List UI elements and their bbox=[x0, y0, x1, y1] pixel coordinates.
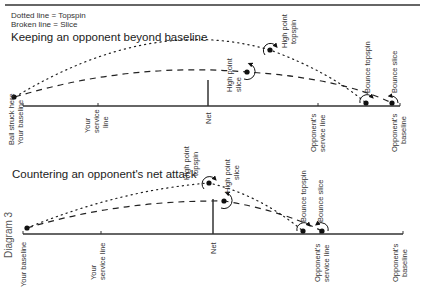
label-net: Net bbox=[209, 241, 218, 254]
diagram-2: Countering an opponent's net attack Your… bbox=[12, 145, 409, 287]
label-high-slice-2: slice bbox=[234, 77, 243, 92]
label-opp-baseline-2: baseline bbox=[400, 249, 409, 277]
legend-dotted: Dotted line = Topspin bbox=[11, 11, 86, 20]
slice-path bbox=[27, 201, 322, 231]
label-your-service-1: Your bbox=[89, 264, 98, 280]
label-bounce-slice: Bounce slice bbox=[316, 179, 325, 222]
label-high-topspin-2: topspin bbox=[191, 152, 200, 176]
ball-high-topspin-icon bbox=[267, 47, 272, 52]
label-your-service-2: service line bbox=[98, 242, 107, 280]
label-high-slice-1: High point bbox=[223, 158, 232, 193]
label-high-topspin-1: High point bbox=[182, 145, 191, 180]
label-your-service-1: Your bbox=[83, 117, 92, 133]
label-ball-struck: Ball struck here bbox=[7, 93, 16, 145]
label-your-baseline: Your baseline bbox=[19, 242, 28, 287]
label-opp-service-2: service line bbox=[318, 114, 327, 152]
tennis-diagram: Dotted line = Topspin Broken line = Slic… bbox=[0, 0, 426, 305]
ball-high-slice-icon bbox=[221, 198, 226, 203]
label-your-service-2: service bbox=[92, 109, 101, 133]
diagram-1: Keeping an opponent beyond baseline Ball… bbox=[7, 13, 408, 152]
ball-high-topspin-icon bbox=[206, 180, 211, 185]
label-your-service-3: line bbox=[101, 116, 110, 128]
label-bounce-slice: Bounce slice bbox=[390, 50, 399, 93]
legend-broken: Broken line = Slice bbox=[11, 20, 78, 29]
ball-high-slice-icon bbox=[244, 69, 249, 74]
ball-bounce-topspin-icon bbox=[300, 228, 305, 233]
label-high-slice-2: slice bbox=[232, 165, 241, 180]
label-opp-service-1: Opponent's bbox=[309, 114, 318, 152]
slice-path bbox=[15, 70, 392, 103]
label-opp-baseline-1: Opponent's bbox=[390, 114, 399, 152]
label-high-slice-1: High point bbox=[225, 57, 234, 92]
label-opp-baseline-1: Opponent's bbox=[391, 244, 400, 282]
label-your-baseline: Your baseline bbox=[16, 100, 25, 145]
side-label-diagram: Diagram 3 bbox=[3, 211, 14, 258]
ball-bounce-slice-icon bbox=[319, 228, 324, 233]
topspin-path bbox=[27, 183, 303, 231]
label-net: Net bbox=[204, 111, 213, 124]
ball-start-icon bbox=[24, 225, 29, 230]
diagram2-title: Countering an opponent's net attack bbox=[12, 168, 197, 180]
ball-bounce-topspin-icon bbox=[363, 100, 368, 105]
ball-bounce-slice-icon bbox=[389, 100, 394, 105]
label-bounce-topspin: Bounce topspin bbox=[299, 170, 308, 222]
label-opp-service-2: service line bbox=[322, 244, 331, 282]
diagram1-title: Keeping an opponent beyond baseline bbox=[11, 31, 207, 43]
label-opp-service-1: Opponent's bbox=[313, 244, 322, 282]
topspin-path bbox=[15, 40, 366, 103]
label-high-topspin-1: High point bbox=[280, 13, 289, 48]
label-bounce-topspin: Bounce topspin bbox=[363, 41, 372, 93]
label-high-topspin-2: topspin bbox=[289, 20, 298, 44]
label-opp-baseline-2: baseline bbox=[399, 116, 408, 144]
